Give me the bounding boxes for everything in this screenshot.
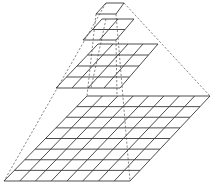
level-1-grid bbox=[83, 19, 134, 40]
pyramid-diagram bbox=[0, 0, 217, 195]
level-3-grid bbox=[4, 96, 210, 181]
level-2-grid bbox=[56, 44, 158, 88]
grid-levels bbox=[4, 3, 210, 181]
inner-edge-a bbox=[116, 14, 130, 181]
outer-left-edge bbox=[4, 3, 106, 181]
grid-column-line bbox=[116, 3, 124, 14]
pyramid-grid-canvas bbox=[0, 0, 217, 195]
grid-column-line bbox=[96, 3, 106, 14]
outer-right-edge bbox=[124, 3, 210, 96]
level-0-grid bbox=[96, 3, 124, 14]
